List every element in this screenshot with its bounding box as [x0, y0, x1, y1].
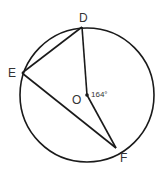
chord-de [22, 27, 82, 73]
chord-ef [22, 73, 116, 148]
angle-label: 164° [91, 90, 108, 99]
label-f: F [120, 151, 127, 165]
circle-diagram: D E F O 164° [0, 0, 160, 170]
label-e: E [8, 66, 16, 80]
radius-od [82, 27, 87, 95]
label-d: D [79, 11, 88, 25]
radius-of [87, 95, 116, 148]
center-point [85, 93, 89, 97]
diagram-canvas: D E F O 164° [0, 0, 160, 170]
label-o: O [72, 93, 81, 107]
